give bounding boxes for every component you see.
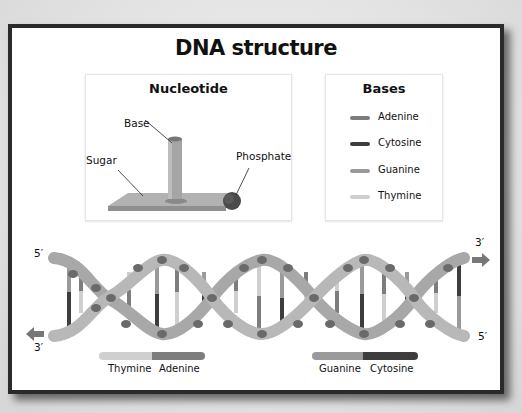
right-arrow-icon	[472, 253, 490, 267]
pair-label-adenine: Adenine	[159, 363, 200, 374]
pair-label-thymine: Thymine	[108, 363, 151, 374]
right-top-end-label: 3′	[475, 236, 484, 248]
right-bottom-end-label: 5′	[478, 330, 487, 342]
left-arrow-icon	[26, 327, 44, 341]
diagram-frame: DNA structure Nucleotide Base Sugar Phos…	[8, 24, 504, 394]
pair-label-cytosine: Cytosine	[370, 363, 413, 374]
pair-label-guanine: Guanine	[319, 363, 361, 374]
left-bottom-end-label: 3′	[34, 341, 43, 353]
left-top-end-label: 5′	[34, 247, 43, 259]
guanine-cytosine-pair-bar	[312, 352, 418, 360]
thymine-adenine-pair-bar	[99, 352, 205, 360]
dna-double-helix	[12, 28, 500, 390]
